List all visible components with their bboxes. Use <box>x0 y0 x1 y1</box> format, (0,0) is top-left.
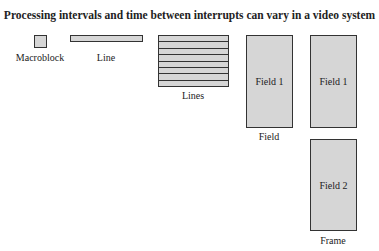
field-box-text: Field 1 <box>255 76 283 87</box>
line-label: Line <box>76 52 136 63</box>
lines-label: Lines <box>163 90 223 101</box>
lines-box <box>158 35 229 87</box>
field-box: Field 1 <box>246 35 293 128</box>
frame-field2-box: Field 2 <box>310 139 357 231</box>
field-label: Field <box>239 131 299 142</box>
macroblock-box <box>34 35 47 48</box>
diagram-title: Processing intervals and time between in… <box>0 9 379 21</box>
line-box <box>70 35 143 42</box>
frame-field1-text: Field 1 <box>319 76 347 87</box>
frame-field1-box: Field 1 <box>310 35 357 128</box>
frame-field2-text: Field 2 <box>319 180 347 191</box>
macroblock-label: Macroblock <box>10 52 70 63</box>
frame-label: Frame <box>303 235 363 246</box>
